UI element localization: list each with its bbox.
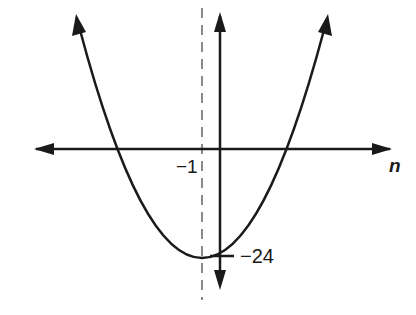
axis-of-symmetry-label: −1 xyxy=(176,156,198,177)
y-axis-down-arrow-icon xyxy=(214,270,226,290)
y-intercept-label: −24 xyxy=(240,245,274,267)
parabola-graph: −1 −24 n xyxy=(0,0,416,315)
y-axis xyxy=(214,12,226,290)
x-axis-left-arrow-icon xyxy=(34,143,54,155)
curve-left-arrow-icon xyxy=(72,14,86,36)
x-axis-label: n xyxy=(389,155,401,176)
curve-right-arrow-icon xyxy=(318,14,332,36)
y-axis-up-arrow-icon xyxy=(214,12,226,32)
x-axis-right-arrow-icon xyxy=(372,143,392,155)
x-axis xyxy=(34,143,392,155)
